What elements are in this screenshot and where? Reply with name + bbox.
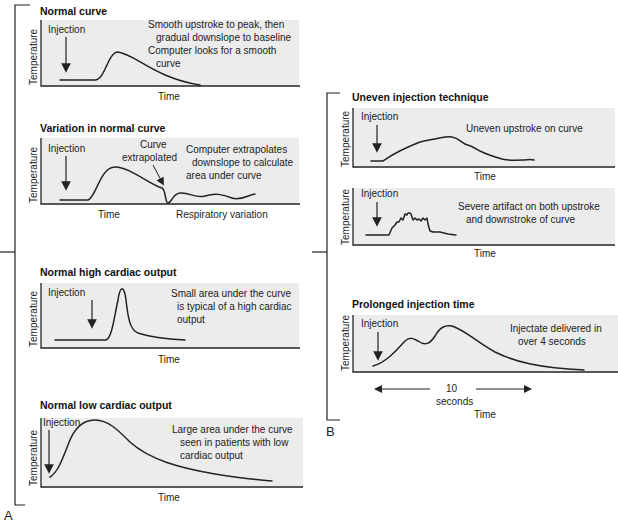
panel-uneven-injection: Uneven injection technique Temperature I… [340, 91, 615, 182]
x-axis-label: Time [474, 171, 496, 182]
x-axis-label: Time [158, 492, 180, 503]
y-axis-label: Temperature [340, 188, 351, 245]
annotation-line: downslope to calculate [192, 157, 294, 168]
panel-title: Normal high cardiac output [40, 266, 177, 278]
respiratory-variation-label: Respiratory variation [176, 209, 268, 220]
panel-title: Uneven injection technique [352, 91, 489, 103]
annotation-line: Computer extrapolates [186, 144, 287, 155]
x-axis-label: Time [158, 354, 180, 365]
duration-unit: seconds [436, 396, 473, 407]
annotation-line: cardiac output [180, 450, 243, 461]
panel-title: Normal curve [40, 5, 107, 17]
group-b-label: B [326, 424, 335, 439]
y-axis-label: Temperature [28, 146, 39, 203]
duration-value: 10 [446, 383, 458, 394]
injection-label: Injection [48, 287, 85, 298]
panel-severe-artifact: Temperature Injection Severe artifact on… [340, 188, 615, 259]
y-axis-label: Temperature [340, 110, 351, 167]
annotation-line: Severe artifact on both upstroke [458, 201, 600, 212]
x-axis-label: Time [474, 248, 496, 259]
injection-label: Injection [43, 417, 80, 428]
x-axis-label: Time [98, 209, 120, 220]
panel-variation-normal-curve: Variation in normal curve Temperature In… [28, 122, 300, 220]
annotation-line: Computer looks for a smooth [148, 45, 276, 56]
annotation-line: curve [156, 58, 181, 69]
injection-label: Injection [361, 111, 398, 122]
annotation-line: over 4 seconds [518, 336, 586, 347]
panel-title: Prolonged injection time [352, 298, 475, 310]
annotation-line: gradual downslope to baseline [156, 32, 292, 43]
injection-label: Injection [361, 188, 398, 199]
x-axis-label: Time [158, 91, 180, 102]
annotation-line: Injectate delivered in [510, 323, 602, 334]
thermodilution-curves-figure: A B Normal curve Temperature Injection S… [0, 0, 618, 525]
annotation-line: Uneven upstroke on curve [466, 123, 583, 134]
annotation-line: seen in patients with low [180, 437, 289, 448]
annotation-line: Smooth upstroke to peak, then [148, 19, 284, 30]
injection-label: Injection [361, 318, 398, 329]
annotation-line: Large area under the curve [172, 424, 293, 435]
panel-normal-curve: Normal curve Temperature Injection Smoot… [28, 5, 300, 102]
y-axis-label: Temperature [340, 314, 351, 371]
annotation-line: output [177, 314, 205, 325]
x-axis-label: Time [474, 409, 496, 420]
y-axis-label: Temperature [28, 429, 39, 486]
annotation-line: and downstroke of curve [466, 214, 575, 225]
y-axis-label: Temperature [28, 28, 39, 85]
group-a-bracket [0, 5, 30, 505]
annotation-line: is typical of a high cardiac [177, 301, 292, 312]
panel-title: Normal low cardiac output [40, 399, 172, 411]
injection-label: Injection [48, 143, 85, 154]
y-axis-label: Temperature [28, 290, 39, 347]
callout-line: extrapolated [122, 152, 177, 163]
panel-high-cardiac-output: Normal high cardiac output Temperature I… [28, 266, 300, 365]
group-a-label: A [4, 508, 13, 523]
callout-line: Curve [140, 139, 167, 150]
annotation-line: area under curve [186, 170, 262, 181]
panel-prolonged-injection: Prolonged injection time Temperature Inj… [340, 298, 618, 420]
injection-label: Injection [48, 24, 85, 35]
panel-low-cardiac-output: Normal low cardiac output Temperature In… [28, 399, 303, 503]
group-b-bracket [312, 93, 340, 420]
panel-title: Variation in normal curve [40, 122, 166, 134]
annotation-line: Small area under the curve [171, 288, 292, 299]
